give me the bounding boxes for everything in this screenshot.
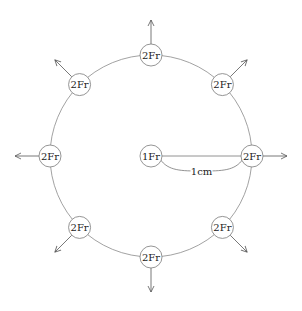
outer-node-top: 2Fr [140,44,162,66]
node-label: 1Fr [142,151,160,162]
node-label: 2Fr [71,222,89,233]
node-label: 2Fr [213,222,231,233]
outer-node-upper-left: 2Fr [69,74,91,96]
force-arrow-upper-right [230,60,247,77]
distance-indicator: 1cm [160,156,243,177]
distance-label: 1cm [191,166,213,177]
outer-node-lower-right: 2Fr [211,216,233,238]
node-label: 2Fr [41,151,59,162]
node-label: 2Fr [213,79,231,90]
node-label: 2Fr [142,252,160,263]
center-node: 1Fr [140,145,162,167]
outer-node-bottom: 2Fr [140,246,162,268]
outer-node-lower-left: 2Fr [69,216,91,238]
outer-node-right: 2Fr [241,145,263,167]
force-diagram: 1cm 1Fr 2Fr2Fr2Fr2Fr2Fr2Fr2Fr2Fr [0,0,302,311]
force-arrow-lower-left [55,235,72,252]
force-arrow-upper-left [55,60,72,77]
outer-node-upper-right: 2Fr [211,74,233,96]
node-label: 2Fr [71,79,89,90]
outer-node-left: 2Fr [39,145,61,167]
force-arrow-lower-right [230,235,247,252]
node-label: 2Fr [142,50,160,61]
node-label: 2Fr [243,151,261,162]
